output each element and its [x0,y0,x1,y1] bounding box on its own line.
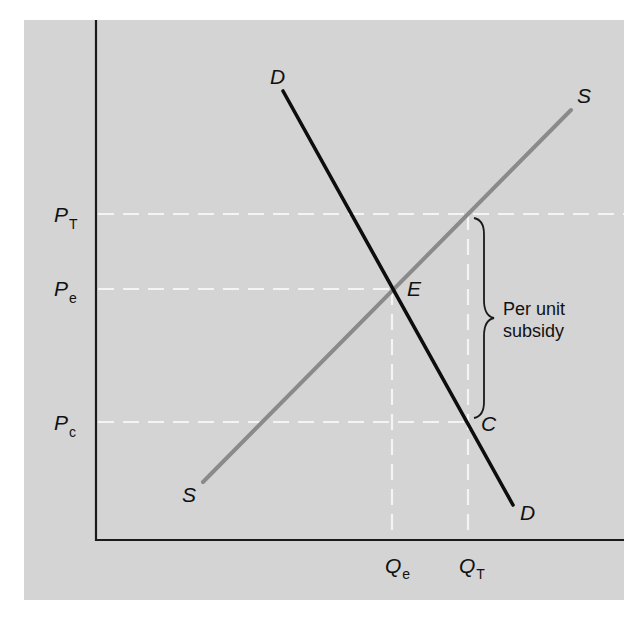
subsidy-label-line1: Per unit [503,299,565,319]
supply-top-label: S [577,84,591,107]
point-c-label: C [481,412,497,435]
subsidy-supply-demand-chart: PT Pe Pc Qe QT D D S S E C Per unit subs… [0,0,639,620]
demand-top-label: D [270,65,285,88]
demand-bottom-label: D [520,501,535,524]
equilibrium-point-label: E [407,277,422,300]
supply-bottom-label: S [182,483,196,506]
subsidy-label-line2: subsidy [503,321,564,341]
